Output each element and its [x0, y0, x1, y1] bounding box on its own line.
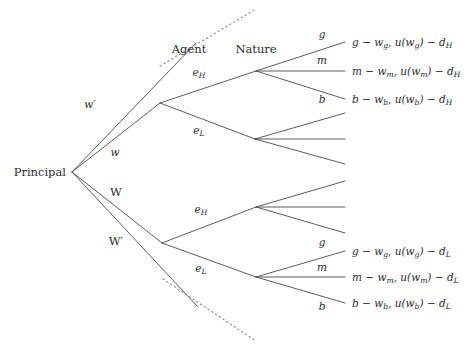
edge-label-w-prime: w′ [84, 98, 96, 110]
edge-label-w: w [111, 146, 120, 158]
outcome-label-b-top: b [319, 93, 326, 105]
outcome-label-g-top: g [319, 28, 326, 40]
player-label-principal: Principal [14, 165, 67, 179]
edge-label-W-prime: W′ [109, 234, 124, 248]
game-tree-figure: Principal Agent Nature w′ w W W′ eH eL e… [0, 0, 469, 347]
outcome-label-m-bottom: m [317, 261, 327, 273]
outcome-label-g-bottom: g [319, 236, 326, 248]
player-label-nature: Nature [235, 42, 276, 56]
player-label-agent: Agent [171, 42, 207, 56]
outcome-label-b-bottom: b [319, 300, 326, 312]
outcome-label-m-top: m [317, 54, 327, 66]
edge-label-W: W [110, 185, 122, 199]
